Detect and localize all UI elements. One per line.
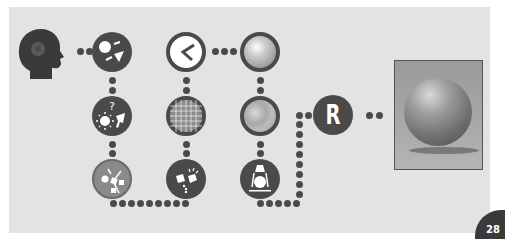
angle-icon — [170, 36, 202, 68]
lamp-object-node — [240, 159, 280, 199]
page-number: 28 — [486, 224, 500, 235]
light-scatter-icon — [94, 161, 134, 201]
connector-dot — [173, 200, 180, 207]
connector-dot — [146, 200, 153, 207]
svg-text:?: ? — [109, 100, 115, 113]
connector-dot — [257, 200, 264, 207]
connector-dot — [296, 191, 303, 198]
connector-dot — [293, 200, 300, 207]
connector-dot — [164, 200, 171, 207]
lamp-lit-object-icon — [240, 159, 280, 199]
light-and-camera-icon — [92, 32, 132, 72]
light-camera-node — [92, 32, 132, 72]
connector-dot — [212, 48, 219, 55]
render-node: R — [313, 95, 353, 135]
connector-dot — [109, 77, 116, 84]
connector-dot — [366, 112, 373, 119]
angle-node — [166, 32, 206, 72]
connector-dot — [296, 121, 303, 128]
lighting-question-node: ? — [92, 96, 132, 136]
connector-dot — [183, 87, 190, 94]
connector-dot — [296, 171, 303, 178]
connector-dot — [284, 200, 291, 207]
connector-dot — [183, 141, 190, 148]
render-label: R — [318, 95, 348, 135]
connector-dot — [155, 200, 162, 207]
light-and-spotlight-question-icon: ? — [92, 96, 132, 136]
connector-dot — [137, 200, 144, 207]
connector-dot — [109, 87, 116, 94]
connector-dot — [109, 150, 116, 157]
connector-dot — [296, 141, 303, 148]
light-bounce-node — [166, 159, 206, 199]
light-bounce-icon — [166, 159, 206, 199]
connector-dot — [230, 48, 237, 55]
shaded-sphere-node — [240, 32, 280, 72]
connector-dot — [257, 150, 264, 157]
connector-dot — [376, 112, 383, 119]
connector-dot — [257, 141, 264, 148]
wireframe-grid-sphere-icon — [170, 100, 202, 132]
connector-dot — [296, 112, 303, 119]
connector-dot — [296, 181, 303, 188]
textured-sphere-node — [240, 96, 280, 136]
connector-dot — [257, 77, 264, 84]
wireframe-sphere-node — [166, 96, 206, 136]
connector-dot — [183, 150, 190, 157]
connector-dot — [109, 141, 116, 148]
connector-dot — [182, 200, 189, 207]
light-scatter-node — [92, 159, 132, 199]
connector-dot — [257, 87, 264, 94]
connector-dot — [77, 48, 84, 55]
connector-dot — [266, 200, 273, 207]
connector-dot — [110, 200, 117, 207]
connector-dot — [296, 131, 303, 138]
connector-dot — [119, 200, 126, 207]
connector-dot — [275, 200, 282, 207]
connector-dot — [305, 112, 312, 119]
connector-dot — [296, 151, 303, 158]
rendered-sphere-photo — [394, 60, 483, 170]
connector-dot — [128, 200, 135, 207]
connector-dot — [183, 77, 190, 84]
head-silhouette-icon — [16, 27, 64, 83]
connector-dot — [221, 48, 228, 55]
connector-dot — [296, 161, 303, 168]
